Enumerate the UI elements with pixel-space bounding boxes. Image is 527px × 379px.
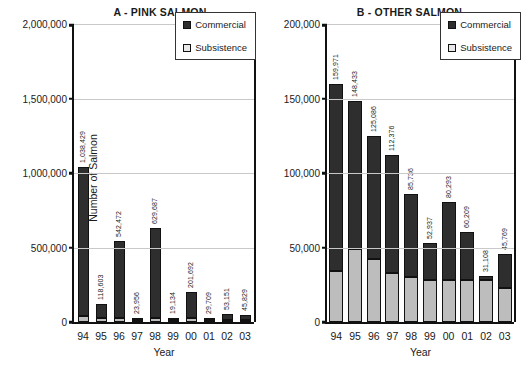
stacked-bar[interactable]: 118,603 bbox=[96, 304, 107, 322]
bar-segment-subsistence[interactable] bbox=[479, 280, 493, 322]
gridline bbox=[327, 173, 514, 174]
legend-item-subsistence: Subsistence bbox=[183, 42, 247, 53]
bar-value-label: 23,956 bbox=[133, 292, 140, 314]
gridline bbox=[74, 99, 254, 100]
stacked-bar[interactable]: 148,433 bbox=[348, 101, 362, 322]
bar-segment-subsistence[interactable] bbox=[460, 280, 474, 322]
panel-other-salmon: B - OTHER SALMON 159,971148,433125,08611… bbox=[264, 0, 527, 379]
y-tick-label: 1,500,000 bbox=[23, 93, 75, 104]
bar-segment-commercial[interactable] bbox=[498, 254, 512, 288]
bar-segment-subsistence[interactable] bbox=[329, 271, 343, 322]
x-tick-label: 00 bbox=[439, 322, 458, 342]
bar-segment-commercial[interactable] bbox=[367, 136, 381, 260]
bar-value-label: 52,937 bbox=[426, 217, 433, 239]
bar-value-label: 542,472 bbox=[115, 211, 122, 237]
legend-label-subsistence: Subsistence bbox=[460, 42, 512, 53]
x-axis-a: 94959697989900010203 bbox=[74, 322, 254, 342]
x-tick-label: 00 bbox=[182, 322, 200, 342]
y-tick-mark bbox=[322, 97, 327, 100]
x-tick-label: 97 bbox=[383, 322, 402, 342]
x-tick-label: 99 bbox=[421, 322, 440, 342]
subsistence-swatch-icon bbox=[183, 44, 191, 52]
bar-segment-subsistence[interactable] bbox=[385, 273, 399, 322]
bar-segment-commercial[interactable] bbox=[96, 304, 107, 317]
bar-value-label: 125,086 bbox=[370, 106, 377, 132]
stacked-bar[interactable]: 60,209 bbox=[460, 232, 474, 322]
y-tick-mark bbox=[69, 246, 74, 249]
bar-segment-commercial[interactable] bbox=[442, 202, 456, 280]
stacked-bar[interactable]: 159,971 bbox=[329, 84, 343, 322]
x-axis-title-a: Year bbox=[74, 346, 254, 358]
stacked-bar[interactable]: 112,376 bbox=[385, 155, 399, 322]
x-tick-label: 99 bbox=[164, 322, 182, 342]
x-tick-label: 95 bbox=[346, 322, 365, 342]
y-tick-label: 100,000 bbox=[284, 168, 327, 179]
bar-segment-subsistence[interactable] bbox=[404, 277, 418, 322]
bar-value-label: 148,433 bbox=[351, 71, 358, 97]
y-tick-mark bbox=[322, 246, 327, 249]
bar-value-label: 85,736 bbox=[407, 168, 414, 190]
bar-value-label: 45,829 bbox=[241, 289, 248, 311]
bar-value-label: 19,134 bbox=[169, 292, 176, 314]
stacked-bar[interactable]: 31,108 bbox=[479, 276, 493, 322]
x-tick-label: 96 bbox=[110, 322, 128, 342]
bar-segment-commercial[interactable] bbox=[348, 101, 362, 249]
bar-segment-subsistence[interactable] bbox=[442, 280, 456, 322]
stacked-bar[interactable]: 201,692 bbox=[186, 292, 197, 322]
x-tick-label: 94 bbox=[327, 322, 346, 342]
stacked-bar[interactable]: 542,472 bbox=[114, 241, 125, 322]
legend-label-subsistence: Subsistence bbox=[195, 42, 247, 53]
y-tick-mark bbox=[69, 172, 74, 175]
stacked-bar[interactable]: 629,687 bbox=[150, 228, 161, 322]
gridline bbox=[327, 99, 514, 100]
bar-segment-subsistence[interactable] bbox=[498, 288, 512, 322]
bar-segment-commercial[interactable] bbox=[404, 194, 418, 277]
legend-item-subsistence: Subsistence bbox=[448, 42, 512, 53]
legend-label-commercial: Commercial bbox=[460, 19, 511, 30]
bar-segment-commercial[interactable] bbox=[150, 228, 161, 317]
stacked-bar[interactable]: 125,086 bbox=[367, 136, 381, 322]
bar-segment-commercial[interactable] bbox=[78, 167, 89, 316]
stacked-bar[interactable]: 85,736 bbox=[404, 194, 418, 322]
stacked-bar[interactable]: 53,151 bbox=[222, 314, 233, 322]
bar-segment-commercial[interactable] bbox=[186, 292, 197, 318]
stacked-bar[interactable]: 80,293 bbox=[442, 202, 456, 322]
x-tick-label: 98 bbox=[146, 322, 164, 342]
y-tick-mark bbox=[322, 172, 327, 175]
bar-segment-subsistence[interactable] bbox=[367, 259, 381, 322]
bar-segment-subsistence[interactable] bbox=[348, 249, 362, 322]
stacked-bar[interactable]: 45,769 bbox=[498, 254, 512, 322]
y-tick-mark bbox=[69, 24, 74, 27]
stacked-bar[interactable]: 45,829 bbox=[240, 315, 251, 322]
gridline bbox=[74, 173, 254, 174]
y-tick-label: 2,000,000 bbox=[23, 19, 75, 30]
subsistence-swatch-icon bbox=[448, 44, 456, 52]
y-tick-mark bbox=[69, 321, 74, 324]
bar-value-label: 45,769 bbox=[501, 228, 508, 250]
plot-area-a: Number of Salmon 1,038,429118,603542,472… bbox=[72, 24, 254, 324]
x-tick-label: 98 bbox=[402, 322, 421, 342]
bar-segment-subsistence[interactable] bbox=[423, 280, 437, 322]
commercial-swatch-icon bbox=[448, 21, 456, 29]
legend-item-commercial: Commercial bbox=[448, 19, 512, 30]
stacked-bar[interactable]: 1,038,429 bbox=[78, 167, 89, 322]
y-tick-mark bbox=[322, 24, 327, 27]
bar-value-label: 1,038,429 bbox=[79, 131, 86, 163]
bar-value-label: 201,692 bbox=[187, 262, 194, 288]
x-tick-label: 94 bbox=[74, 322, 92, 342]
x-tick-label: 01 bbox=[200, 322, 218, 342]
legend-label-commercial: Commercial bbox=[195, 19, 246, 30]
bar-segment-commercial[interactable] bbox=[114, 241, 125, 317]
x-tick-label: 03 bbox=[236, 322, 254, 342]
gridline bbox=[74, 248, 254, 249]
x-tick-label: 97 bbox=[128, 322, 146, 342]
bar-segment-commercial[interactable] bbox=[460, 232, 474, 280]
bar-value-label: 60,209 bbox=[463, 206, 470, 228]
bar-value-label: 31,108 bbox=[482, 250, 489, 272]
bar-segment-commercial[interactable] bbox=[329, 84, 343, 272]
x-tick-label: 02 bbox=[477, 322, 496, 342]
y-tick-label: 500,000 bbox=[31, 242, 74, 253]
stacked-bar[interactable]: 52,937 bbox=[423, 243, 437, 322]
bar-segment-commercial[interactable] bbox=[423, 243, 437, 280]
bar-value-label: 629,687 bbox=[151, 198, 158, 224]
